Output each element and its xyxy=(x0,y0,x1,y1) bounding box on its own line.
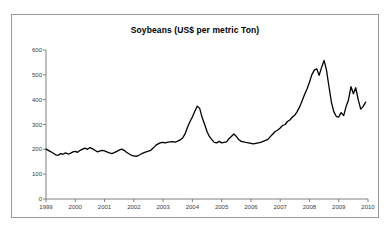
x-tick-label: 2006 xyxy=(244,204,257,210)
x-tick-label: 2005 xyxy=(215,204,228,210)
x-tick-label: 1999 xyxy=(39,204,52,210)
x-tick-label: 2004 xyxy=(186,204,199,210)
y-tick-label: 500 xyxy=(32,72,42,78)
line-chart-svg xyxy=(46,50,368,199)
series-line-soybeans xyxy=(46,60,366,156)
y-tick-label: 100 xyxy=(32,171,42,177)
x-tick-label: 2009 xyxy=(332,204,345,210)
clipped-header-text xyxy=(10,0,310,4)
x-tick-label: 2000 xyxy=(69,204,82,210)
chart-title: Soybeans (US$ per metric Ton) xyxy=(12,25,378,35)
y-tick-label: 0 xyxy=(39,196,42,202)
x-tick-label: 2002 xyxy=(127,204,140,210)
y-tick-label: 200 xyxy=(32,146,42,152)
x-tick-label: 2008 xyxy=(303,204,316,210)
x-tick-label: 2003 xyxy=(156,204,169,210)
y-tick-label: 300 xyxy=(32,122,42,128)
chart-frame: Soybeans (US$ per metric Ton) 0100200300… xyxy=(11,14,379,218)
chart-page: Soybeans (US$ per metric Ton) 0100200300… xyxy=(0,0,388,228)
x-tick-label: 2010 xyxy=(361,204,374,210)
x-tick-label: 2007 xyxy=(273,204,286,210)
y-tick-label: 400 xyxy=(32,97,42,103)
x-tick-label: 2001 xyxy=(98,204,111,210)
y-tick-label: 600 xyxy=(32,47,42,53)
plot-area: 0100200300400500600 19992000200120022003… xyxy=(46,50,368,199)
